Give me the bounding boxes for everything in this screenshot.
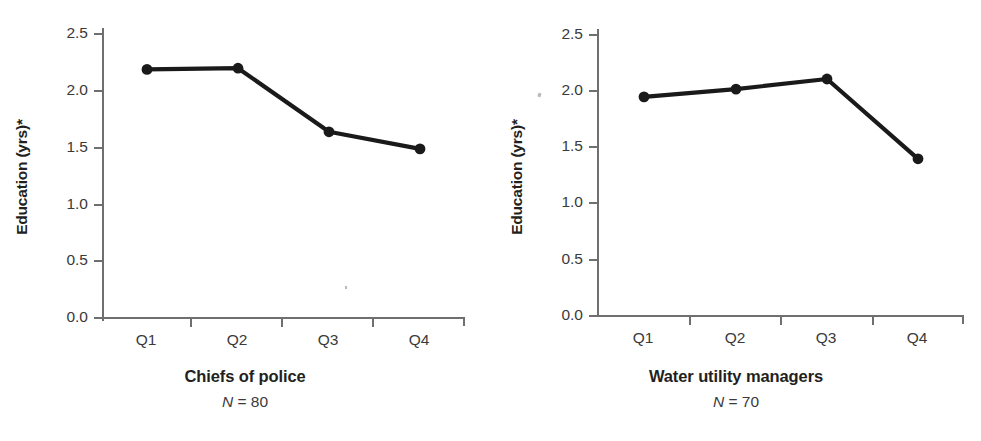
x-tick-label-q2: Q2: [705, 329, 765, 347]
y-tick-0.5: [94, 260, 102, 262]
y-tick-label-2.0: 2.0: [543, 81, 583, 99]
y-tick-2.5: [589, 34, 597, 36]
y-tick-0.5: [589, 259, 597, 261]
scan-artifact-speck: [537, 93, 541, 98]
x-tick-label-q2: Q2: [207, 331, 267, 349]
x-tick-label-q4: Q4: [389, 331, 449, 349]
x-tick-boundary-1: [190, 318, 192, 327]
n-variable-right: N: [713, 393, 724, 410]
data-point-q4: [913, 153, 924, 164]
y-tick-label-1.5: 1.5: [543, 137, 583, 155]
x-tick-boundary-3: [372, 318, 374, 327]
data-point-q4: [415, 144, 426, 155]
y-tick-label-2.5: 2.5: [543, 25, 583, 43]
panel-title-left: Chiefs of police: [0, 367, 490, 386]
y-tick-1.0: [94, 204, 102, 206]
y-tick-label-1.0: 1.0: [48, 195, 88, 213]
panel-sample-size-right: N = 70: [491, 393, 981, 411]
y-tick-1.0: [589, 202, 597, 204]
x-tick-label-q3: Q3: [298, 331, 358, 349]
x-tick-boundary-2: [780, 316, 782, 325]
y-tick-label-0.5: 0.5: [48, 251, 88, 269]
y-tick-label-0.0: 0.0: [543, 306, 583, 324]
y-tick-label-1.0: 1.0: [543, 193, 583, 211]
y-tick-label-0.5: 0.5: [543, 250, 583, 268]
chart-panel-water-utility-managers: Education (yrs)* 2.5 2.0 1.5 1.0 0.5 0.0…: [491, 0, 981, 441]
chart-panel-chiefs-of-police: Education (yrs)* 2.5 2.0 1.5 1.0 0.5 0.0…: [0, 0, 490, 441]
x-tick-label-q1: Q1: [116, 331, 176, 349]
scan-artifact-speck: [345, 286, 347, 289]
y-tick-2.0: [589, 90, 597, 92]
y-tick-0.0: [94, 317, 102, 319]
x-tick-boundary-3: [872, 316, 874, 325]
y-tick-1.5: [94, 147, 102, 149]
x-tick-label-q4: Q4: [887, 329, 947, 347]
y-tick-2.0: [94, 90, 102, 92]
data-point-q1: [639, 92, 650, 103]
y-tick-0.0: [589, 315, 597, 317]
n-variable-left: N: [222, 393, 233, 410]
data-point-q2: [731, 84, 742, 95]
data-point-q3: [324, 126, 335, 137]
figure-two-panel-line-charts: Education (yrs)* 2.5 2.0 1.5 1.0 0.5 0.0…: [0, 0, 981, 441]
y-axis-line: [597, 29, 599, 317]
y-tick-label-0.0: 0.0: [48, 308, 88, 326]
x-tick-label-q3: Q3: [796, 329, 856, 347]
y-tick-1.5: [589, 146, 597, 148]
n-value-right: = 70: [724, 393, 759, 410]
x-tick-label-q1: Q1: [613, 329, 673, 347]
y-tick-label-1.5: 1.5: [48, 138, 88, 156]
n-value-left: = 80: [233, 393, 268, 410]
x-tick-boundary-2: [281, 318, 283, 327]
data-point-q3: [822, 74, 833, 85]
data-point-q1: [142, 64, 153, 75]
y-axis-line: [102, 28, 104, 321]
panel-title-right: Water utility managers: [491, 367, 981, 386]
panel-sample-size-left: N = 80: [0, 393, 490, 411]
data-point-q2: [233, 63, 244, 74]
x-axis-right-cap: [962, 315, 964, 324]
y-tick-2.5: [94, 33, 102, 35]
x-axis-right-cap: [463, 317, 465, 326]
y-tick-label-2.5: 2.5: [48, 24, 88, 42]
y-axis-title: Education (yrs)*: [13, 67, 31, 287]
y-axis-title: Education (yrs)*: [508, 67, 526, 287]
y-tick-label-2.0: 2.0: [48, 81, 88, 99]
x-tick-boundary-1: [689, 316, 691, 325]
